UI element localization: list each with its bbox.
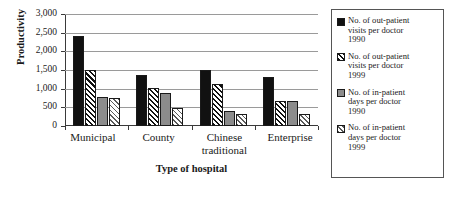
bar [97, 97, 108, 126]
legend-label: No. of in-patient days per doctor 1999 [348, 123, 405, 152]
x-axis-tick-label: Enterprise [257, 131, 323, 163]
y-axis-tick-label: 1,000 [17, 84, 57, 94]
bar [160, 93, 171, 126]
legend-label: No. of in-patient days per doctor 1990 [348, 88, 405, 117]
bar [212, 84, 223, 126]
x-axis-tick-mark [65, 126, 66, 130]
bar [136, 75, 147, 126]
y-axis-tick-mark [61, 33, 65, 34]
bar-groups [65, 14, 318, 126]
legend-item[interactable]: No. of out-patient visits per doctor 199… [337, 16, 439, 45]
y-axis-tick-label: 0 [17, 121, 57, 131]
chart-container: Productivity MunicipalCountyChinesetradi… [0, 0, 449, 197]
legend-swatch-icon [337, 89, 345, 97]
y-axis-tick-label: 500 [17, 102, 57, 112]
y-axis-tick-label: 1,500 [17, 65, 57, 75]
plot-area [65, 14, 318, 126]
y-axis-tick-mark [61, 89, 65, 90]
y-axis-tick-mark [61, 107, 65, 108]
legend-item[interactable]: No. of in-patient days per doctor 1999 [337, 123, 439, 152]
x-axis-title: Type of hospital [60, 163, 323, 174]
bar [85, 70, 96, 126]
legend-swatch-icon [337, 125, 345, 133]
bar [109, 98, 120, 126]
x-axis-tick-label: County [126, 131, 192, 163]
bar [148, 88, 159, 126]
x-axis-tick-label: Municipal [60, 131, 126, 163]
x-axis-tick-mark [318, 126, 319, 130]
x-axis-tick-mark [192, 126, 193, 130]
legend-item[interactable]: No. of out-patient visits per doctor 199… [337, 52, 439, 81]
bar [200, 70, 211, 126]
bar-group [128, 14, 191, 126]
x-axis-tick-mark [128, 126, 129, 130]
bar-group [255, 14, 318, 126]
legend-item[interactable]: No. of in-patient days per doctor 1990 [337, 88, 439, 117]
bar [263, 77, 274, 126]
legend-swatch-icon [337, 53, 345, 61]
bar [73, 36, 84, 126]
x-axis-tick-mark [255, 126, 256, 130]
bar [172, 108, 183, 126]
legend-label: No. of out-patient visits per doctor 199… [348, 16, 409, 45]
y-axis-tick-mark [61, 70, 65, 71]
bar [287, 101, 298, 126]
legend-swatch-icon [337, 18, 345, 26]
legend: No. of out-patient visits per doctor 199… [331, 9, 444, 178]
bar-group [65, 14, 128, 126]
legend-label: No. of out-patient visits per doctor 199… [348, 52, 409, 81]
bar [275, 101, 286, 126]
x-axis-tick-labels: MunicipalCountyChinesetraditionalEnterpr… [60, 131, 323, 163]
bar [299, 114, 310, 126]
y-axis-tick-mark [61, 126, 65, 127]
bar [236, 114, 247, 126]
x-axis-tick-label: Chinesetraditional [192, 131, 258, 163]
y-axis-tick-mark [61, 14, 65, 15]
bar [224, 111, 235, 126]
y-axis-tick-label: 2,500 [17, 28, 57, 38]
y-axis-tick-label: 2,000 [17, 46, 57, 56]
bar-group [192, 14, 255, 126]
y-axis-tick-mark [61, 51, 65, 52]
y-axis-tick-label: 3,000 [17, 9, 57, 19]
